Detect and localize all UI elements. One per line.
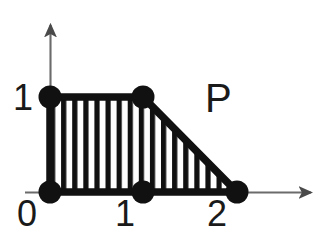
y-axis-tick-label-1: 1 [13, 80, 33, 116]
x-axis-tick-label-1: 1 [115, 196, 135, 232]
vertex-dot-1-1 [132, 86, 155, 109]
origin-label-0: 0 [17, 196, 37, 232]
figure-canvas: 1 0 1 2 P [0, 0, 332, 240]
vertex-dot-0-1 [39, 86, 62, 109]
vertex-dot-2-0 [226, 181, 249, 204]
vertex-dot-0-0 [39, 181, 62, 204]
polygon-figure-svg [0, 0, 332, 240]
x-axis-tick-label-2: 2 [207, 196, 227, 232]
region-label-p: P [205, 78, 232, 118]
